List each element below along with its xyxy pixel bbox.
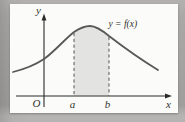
y-axis-arrowhead (42, 14, 47, 21)
origin-label: O (33, 97, 41, 109)
b-label: b (105, 98, 111, 110)
a-label: a (70, 98, 76, 110)
function-graph-svg: y x O a b y = f(x) (0, 0, 185, 122)
shaded-region (74, 26, 109, 96)
figure-canvas: y x O a b y = f(x) (0, 0, 185, 122)
y-axis-label: y (35, 4, 41, 16)
curve-equation-label: y = f(x) (108, 19, 138, 30)
x-axis-label: x (165, 98, 171, 110)
